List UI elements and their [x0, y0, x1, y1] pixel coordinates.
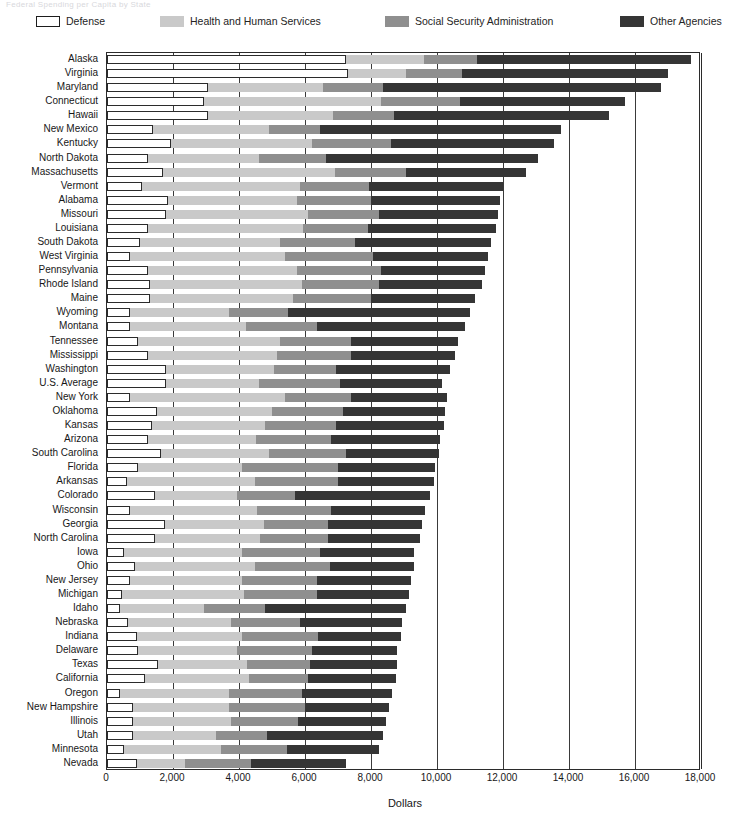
- bar-segment-hhs[interactable]: [148, 266, 297, 275]
- bar-segment-ssa[interactable]: [260, 534, 328, 543]
- bar-segment-defense[interactable]: [107, 689, 120, 698]
- bar-segment-other[interactable]: [343, 407, 445, 416]
- legend-item-ssa[interactable]: Social Security Administration: [385, 16, 553, 27]
- bar-segment-defense[interactable]: [107, 646, 138, 655]
- bar-segment-ssa[interactable]: [277, 351, 351, 360]
- bar-row[interactable]: [107, 504, 699, 518]
- stacked-bar[interactable]: [107, 379, 442, 388]
- bar-segment-ssa[interactable]: [265, 421, 336, 430]
- bar-segment-defense[interactable]: [107, 351, 148, 360]
- bar-segment-ssa[interactable]: [256, 435, 332, 444]
- stacked-bar[interactable]: [107, 365, 450, 374]
- bar-segment-other[interactable]: [251, 759, 347, 768]
- bar-segment-ssa[interactable]: [242, 632, 318, 641]
- bar-row[interactable]: [107, 588, 699, 602]
- bar-segment-other[interactable]: [369, 182, 503, 191]
- bar-segment-hhs[interactable]: [157, 407, 273, 416]
- bar-segment-hhs[interactable]: [166, 379, 258, 388]
- bar-segment-other[interactable]: [351, 393, 447, 402]
- bar-segment-ssa[interactable]: [280, 337, 351, 346]
- bar-segment-other[interactable]: [336, 365, 450, 374]
- stacked-bar[interactable]: [107, 463, 435, 472]
- bar-segment-defense[interactable]: [107, 322, 130, 331]
- bar-row[interactable]: [107, 264, 699, 278]
- bar-segment-ssa[interactable]: [247, 660, 310, 669]
- bar-segment-hhs[interactable]: [148, 435, 255, 444]
- stacked-bar[interactable]: [107, 182, 503, 191]
- bar-row[interactable]: [107, 123, 699, 137]
- bar-segment-ssa[interactable]: [297, 196, 371, 205]
- bar-row[interactable]: [107, 335, 699, 349]
- stacked-bar[interactable]: [107, 83, 661, 92]
- bar-segment-hhs[interactable]: [135, 562, 255, 571]
- bar-segment-ssa[interactable]: [285, 252, 372, 261]
- bar-segment-defense[interactable]: [107, 449, 161, 458]
- bar-segment-defense[interactable]: [107, 674, 145, 683]
- bar-segment-defense[interactable]: [107, 618, 128, 627]
- stacked-bar[interactable]: [107, 520, 422, 529]
- stacked-bar[interactable]: [107, 449, 439, 458]
- bar-segment-defense[interactable]: [107, 69, 348, 78]
- bar-segment-ssa[interactable]: [237, 646, 311, 655]
- bar-segment-defense[interactable]: [107, 196, 168, 205]
- bar-row[interactable]: [107, 475, 699, 489]
- bar-segment-hhs[interactable]: [130, 322, 246, 331]
- bar-segment-hhs[interactable]: [120, 689, 229, 698]
- stacked-bar[interactable]: [107, 351, 455, 360]
- bar-segment-ssa[interactable]: [249, 674, 308, 683]
- bar-segment-defense[interactable]: [107, 125, 153, 134]
- stacked-bar[interactable]: [107, 407, 445, 416]
- bar-segment-other[interactable]: [394, 111, 609, 120]
- legend-item-other[interactable]: Other Agencies: [620, 16, 722, 27]
- bar-segment-defense[interactable]: [107, 576, 130, 585]
- bar-segment-other[interactable]: [406, 168, 526, 177]
- bar-segment-ssa[interactable]: [231, 618, 300, 627]
- bar-segment-defense[interactable]: [107, 97, 204, 106]
- bar-segment-hhs[interactable]: [150, 294, 294, 303]
- bar-row[interactable]: [107, 180, 699, 194]
- bar-segment-hhs[interactable]: [140, 238, 280, 247]
- bar-segment-hhs[interactable]: [128, 618, 230, 627]
- stacked-bar[interactable]: [107, 337, 458, 346]
- bar-segment-other[interactable]: [320, 548, 414, 557]
- bar-segment-hhs[interactable]: [137, 632, 243, 641]
- bar-segment-ssa[interactable]: [406, 69, 462, 78]
- bar-row[interactable]: [107, 574, 699, 588]
- stacked-bar[interactable]: [107, 308, 470, 317]
- bar-segment-defense[interactable]: [107, 717, 133, 726]
- stacked-bar[interactable]: [107, 491, 430, 500]
- bar-segment-other[interactable]: [340, 379, 442, 388]
- bar-segment-hhs[interactable]: [152, 421, 266, 430]
- bar-row[interactable]: [107, 95, 699, 109]
- bar-segment-other[interactable]: [462, 69, 668, 78]
- stacked-bar[interactable]: [107, 506, 425, 515]
- bar-segment-other[interactable]: [383, 83, 662, 92]
- bar-row[interactable]: [107, 602, 699, 616]
- bar-segment-hhs[interactable]: [127, 477, 256, 486]
- bar-segment-other[interactable]: [331, 506, 425, 515]
- bar-segment-defense[interactable]: [107, 393, 130, 402]
- bar-segment-other[interactable]: [460, 97, 625, 106]
- stacked-bar[interactable]: [107, 139, 554, 148]
- bar-segment-hhs[interactable]: [208, 111, 333, 120]
- bar-segment-other[interactable]: [320, 125, 561, 134]
- bar-row[interactable]: [107, 278, 699, 292]
- bar-segment-defense[interactable]: [107, 534, 155, 543]
- bar-segment-other[interactable]: [328, 520, 422, 529]
- bar-segment-hhs[interactable]: [166, 210, 308, 219]
- bar-segment-hhs[interactable]: [208, 83, 324, 92]
- bar-segment-ssa[interactable]: [323, 83, 382, 92]
- bar-segment-ssa[interactable]: [255, 477, 338, 486]
- bar-segment-defense[interactable]: [107, 548, 124, 557]
- bar-segment-hhs[interactable]: [168, 196, 297, 205]
- stacked-bar[interactable]: [107, 548, 414, 557]
- bar-segment-hhs[interactable]: [133, 717, 230, 726]
- stacked-bar[interactable]: [107, 196, 500, 205]
- bar-row[interactable]: [107, 532, 699, 546]
- bar-segment-defense[interactable]: [107, 660, 158, 669]
- stacked-bar[interactable]: [107, 224, 496, 233]
- bar-row[interactable]: [107, 81, 699, 95]
- bar-row[interactable]: [107, 447, 699, 461]
- legend-item-hhs[interactable]: Health and Human Services: [160, 16, 321, 27]
- bar-segment-defense[interactable]: [107, 182, 142, 191]
